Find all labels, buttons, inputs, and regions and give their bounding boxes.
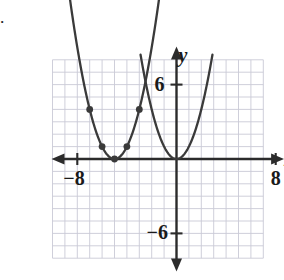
parabola-curves [62,0,212,159]
graph-figure: · y x −8 8 6 −6 [0,0,284,280]
x-tick-label-positive: 8 [271,168,281,188]
y-axis-label: y [179,45,188,65]
coordinate-plane [0,0,284,280]
corner-mark: · [0,14,3,30]
y-tick-label-negative: −6 [147,222,168,242]
y-tick-label-positive: 6 [155,74,165,94]
x-tick-label-negative: −8 [63,168,84,188]
